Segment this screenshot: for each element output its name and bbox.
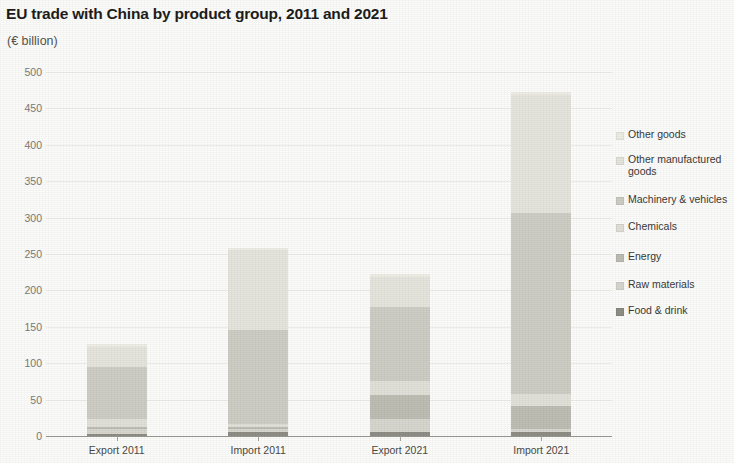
bar-segment <box>370 277 430 308</box>
bar-segment <box>370 307 430 381</box>
x-axis-tick-mark <box>541 436 542 441</box>
legend-item-label: Energy <box>628 250 661 262</box>
legend-item[interactable]: Machinery & vehicles <box>616 193 732 205</box>
legend-item[interactable]: Food & drink <box>616 304 732 316</box>
legend-item[interactable]: Other goods <box>616 128 732 140</box>
bar-segment <box>370 419 430 432</box>
y-axis-tick-labels: 050100150200250300350400450500 <box>0 72 42 437</box>
x-axis-tick-labels: Export 2011Import 2011Export 2021Import … <box>46 444 612 460</box>
chart-legend: Other goodsOther manufactured goodsMachi… <box>616 128 732 329</box>
x-axis-tick-mark <box>400 436 401 441</box>
legend-item[interactable]: Raw materials <box>616 278 732 290</box>
legend-item[interactable]: Chemicals <box>616 220 732 232</box>
bar-import-2011[interactable] <box>228 248 288 436</box>
bar-segment <box>370 395 430 419</box>
bar-segment <box>228 330 288 423</box>
gridline <box>46 72 612 73</box>
bar-segment <box>370 381 430 395</box>
chart-title: EU trade with China by product group, 20… <box>6 5 388 23</box>
x-axis-tick-label: Import 2011 <box>231 444 286 456</box>
legend-item-label: Food & drink <box>628 304 688 316</box>
bar-export-2011[interactable] <box>87 344 147 436</box>
bar-segment <box>511 406 571 429</box>
legend-item-label: Other goods <box>628 128 686 140</box>
legend-item-label: Raw materials <box>628 278 695 290</box>
bar-segment <box>87 419 147 427</box>
legend-item[interactable]: Other manufactured goods <box>616 153 732 177</box>
legend-item-label: Chemicals <box>628 220 677 232</box>
y-axis-tick-label: 450 <box>2 102 42 114</box>
y-axis-tick-label: 100 <box>2 357 42 369</box>
y-axis-tick-label: 0 <box>2 430 42 442</box>
legend-swatch-icon <box>616 282 624 290</box>
bar-import-2021[interactable] <box>511 92 571 436</box>
bar-segment <box>87 367 147 419</box>
x-axis-tick-label: Export 2011 <box>89 444 145 456</box>
y-axis-tick-label: 400 <box>2 139 42 151</box>
y-axis-tick-label: 500 <box>2 66 42 78</box>
bar-segment <box>511 394 571 406</box>
legend-item-label: Machinery & vehicles <box>628 193 727 205</box>
x-axis-tick-label: Import 2021 <box>513 444 569 456</box>
plot-area <box>46 72 612 437</box>
legend-swatch-icon <box>616 197 624 205</box>
bar-segment <box>511 213 571 394</box>
chart-subtitle: (€ billion) <box>7 34 58 48</box>
y-axis-tick-label: 300 <box>2 212 42 224</box>
x-axis-line <box>46 436 612 437</box>
x-axis-tick-mark <box>117 436 118 441</box>
bar-segment <box>87 347 147 367</box>
legend-item-label: Other manufactured goods <box>628 153 732 177</box>
legend-item[interactable]: Energy <box>616 250 732 262</box>
legend-swatch-icon <box>616 254 624 262</box>
legend-swatch-icon <box>616 157 624 165</box>
y-axis-tick-label: 150 <box>2 321 42 333</box>
bar-segment <box>228 250 288 330</box>
legend-swatch-icon <box>616 308 624 316</box>
bar-export-2021[interactable] <box>370 274 430 436</box>
y-axis-tick-label: 350 <box>2 175 42 187</box>
y-axis-tick-label: 250 <box>2 248 42 260</box>
legend-swatch-icon <box>616 132 624 140</box>
y-axis-tick-label: 50 <box>2 394 42 406</box>
y-axis-tick-label: 200 <box>2 284 42 296</box>
x-axis-tick-label: Export 2021 <box>371 444 428 456</box>
legend-swatch-icon <box>616 224 624 232</box>
x-axis-tick-mark <box>258 436 259 441</box>
bar-segment <box>511 95 571 213</box>
